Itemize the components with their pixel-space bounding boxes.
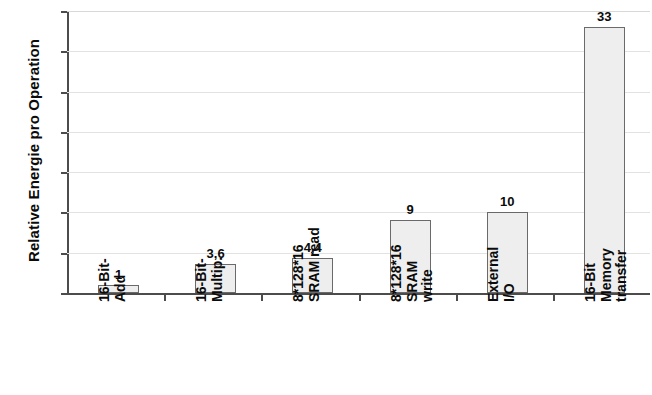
- gridline: [67, 212, 650, 213]
- x-axis-tick-mark: [359, 293, 361, 301]
- gridline: [67, 172, 650, 173]
- bar-chart: Relative Energie pro Operation 051015202…: [0, 0, 652, 395]
- category-label-line: write: [420, 244, 436, 302]
- gridline: [67, 51, 650, 52]
- category-label-line: SRAM: [404, 244, 420, 302]
- category-label-line: Memory: [599, 248, 615, 302]
- gridline: [67, 11, 650, 12]
- y-axis-tick-mark: [61, 172, 67, 174]
- plot-area: 05101520253035 13,64,491033: [67, 11, 650, 293]
- x-axis-tick-mark: [261, 293, 263, 301]
- category-label-line: transfer: [614, 248, 630, 302]
- x-axis-category-label: 8*128*16SRAMwrite: [389, 244, 436, 302]
- x-axis-category-label: ExternalI/O: [486, 247, 517, 302]
- x-axis-category-label: 16-Bit-Multip.: [194, 257, 225, 302]
- y-axis-tick-mark: [61, 11, 67, 13]
- category-label-line: 8*128*16: [389, 244, 405, 302]
- y-axis-tick-mark: [61, 212, 67, 214]
- category-label-line: Add: [113, 258, 129, 302]
- x-axis-tick-mark: [164, 293, 166, 301]
- gridline: [67, 92, 650, 93]
- category-label-line: External: [486, 247, 502, 302]
- category-label-line: 16-Bit-: [194, 257, 210, 302]
- x-axis-category-label: 16-Bit-Add: [97, 258, 128, 302]
- y-axis-tick-mark: [61, 293, 67, 295]
- y-axis-title: Relative Energie pro Operation: [25, 11, 42, 291]
- x-axis-category-label: 8*128*16SRAM read: [291, 227, 322, 302]
- y-axis-tick-mark: [61, 92, 67, 94]
- gridline: [67, 132, 650, 133]
- category-label-line: I/O: [501, 247, 517, 302]
- category-label-line: SRAM read: [307, 227, 323, 302]
- category-label-line: 8*128*16: [291, 227, 307, 302]
- y-axis-tick-mark: [61, 51, 67, 53]
- x-axis-category-label: 16-BitMemorytransfer: [583, 248, 630, 302]
- y-axis-tick-mark: [61, 132, 67, 134]
- bar-value-label: 33: [568, 10, 641, 23]
- y-axis-tick-mark: [61, 253, 67, 255]
- category-label-line: 16-Bit-: [97, 258, 113, 302]
- x-axis-tick-mark: [553, 293, 555, 301]
- x-axis-tick-mark: [456, 293, 458, 301]
- gridline: [67, 253, 650, 254]
- category-label-line: 16-Bit: [583, 248, 599, 302]
- y-axis-line: [67, 11, 69, 293]
- bar-value-label: 10: [471, 195, 544, 208]
- category-label-line: Multip.: [210, 257, 226, 302]
- bar-value-label: 9: [374, 203, 447, 216]
